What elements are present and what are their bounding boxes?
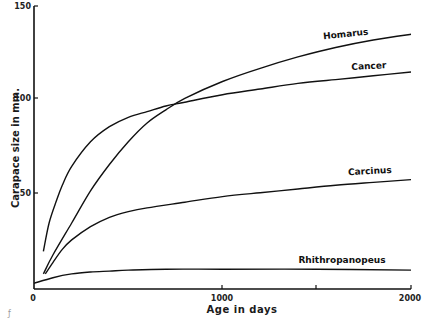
figure-caption-fragment: ƒ bbox=[7, 309, 11, 318]
curve-cancer bbox=[43, 72, 411, 251]
curve-rhithropanopeus bbox=[34, 269, 411, 283]
x-axis-title: Age in days bbox=[207, 304, 278, 315]
label-homarus: Homarus bbox=[323, 27, 369, 42]
label-carcinus: Carcinus bbox=[348, 165, 392, 177]
x-tick-label-1000: 1000 bbox=[211, 294, 234, 303]
y-tick-label-50: 50 bbox=[20, 189, 32, 198]
x-tick-label-0: 0 bbox=[30, 294, 36, 303]
growth-chart: 150 100 50 0 1000 2000 Carapace size in … bbox=[0, 0, 423, 318]
label-rhithropanopeus: Rhithropanopeus bbox=[298, 255, 385, 265]
x-tick-label-2000: 2000 bbox=[399, 294, 422, 303]
y-tick-label-150: 150 bbox=[14, 2, 31, 11]
y-axis-title: Carapace size in mm. bbox=[10, 88, 21, 208]
label-cancer: Cancer bbox=[351, 60, 387, 72]
